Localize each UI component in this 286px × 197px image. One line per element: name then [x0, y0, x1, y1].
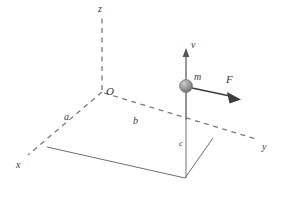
velocity-vector-arrowhead	[183, 48, 190, 57]
force-vector-shaft	[192, 88, 230, 96]
diagram-canvas	[0, 0, 286, 197]
y-axis-label: y	[262, 142, 266, 152]
x-axis-label: x	[16, 160, 20, 170]
z-axis-label: z	[98, 4, 102, 14]
plane-solid-edges	[47, 138, 213, 178]
mass-label: m	[194, 72, 201, 82]
distance-a-label: a	[64, 112, 69, 122]
particle-sphere	[180, 80, 193, 93]
velocity-label: v	[191, 40, 195, 50]
force-label: F	[226, 74, 233, 85]
x-axis-line	[28, 92, 102, 155]
physics-diagram-figure: z x y O a b c m v F	[0, 0, 286, 197]
distance-c-label: c	[179, 139, 183, 148]
force-vector-arrowhead	[227, 92, 241, 104]
distance-b-label: b	[133, 116, 138, 126]
origin-label: O	[106, 86, 114, 97]
